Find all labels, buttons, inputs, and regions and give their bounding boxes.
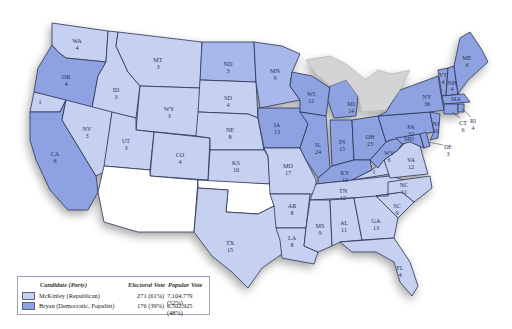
legend: Candidate (Party) Electoral Vote Popular… (17, 276, 210, 315)
svg-text:MI14: MI14 (347, 100, 355, 114)
svg-text:MD: MD (404, 135, 415, 142)
state-me (454, 32, 488, 94)
svg-text:1: 1 (38, 98, 41, 105)
legend-row-bryan: Bryan (Democratic, Populist) (22, 301, 114, 310)
legend-electoral: 271 (61%) (137, 292, 164, 299)
svg-text:IA13: IA13 (274, 121, 281, 135)
svg-text:RI4: RI4 (470, 117, 476, 131)
legend-row-mckinley: McKinley (Republican) (22, 291, 100, 300)
svg-text:IL24: IL24 (315, 141, 321, 155)
legend-candidate: Bryan (Democratic, Populist) (39, 302, 114, 309)
mckinley-swatch (22, 292, 35, 300)
legend-electoral: 176 (39%) (137, 302, 164, 309)
svg-text:MA: MA (451, 95, 462, 102)
state-ia (258, 108, 308, 148)
svg-text:DE3: DE3 (444, 143, 452, 157)
legend-candidate: McKinley (Republican) (39, 292, 100, 299)
legend-header-candidate: Candidate (Party) (40, 281, 87, 288)
svg-text:NJ10: NJ10 (433, 120, 440, 134)
svg-text:WI12: WI12 (307, 90, 315, 104)
bryan-swatch (22, 302, 35, 310)
state-fl (340, 238, 418, 296)
svg-text:IN15: IN15 (339, 138, 346, 152)
legend-header-popular: Popular Vote (168, 281, 202, 288)
svg-text:1: 1 (372, 168, 375, 175)
legend-header-electoral: Electoral Vote (128, 281, 165, 288)
state-ct (444, 104, 458, 114)
legend-popular: 6,502,925 (48%) (167, 302, 209, 316)
svg-text:CT6: CT6 (459, 119, 467, 133)
